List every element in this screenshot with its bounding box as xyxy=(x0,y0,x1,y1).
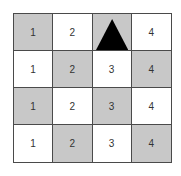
grid-cell-r1-c1: 2 xyxy=(53,51,92,88)
cell-label: 3 xyxy=(109,64,115,75)
cell-label: 3 xyxy=(109,101,115,112)
triangle-marker-icon xyxy=(96,19,128,50)
cell-label: 1 xyxy=(30,64,36,75)
grid-cell-r3-c3: 4 xyxy=(132,125,171,162)
cell-label: 4 xyxy=(149,27,155,38)
grid-cell-r1-c3: 4 xyxy=(132,51,171,88)
grid-cell-r2-c0: 1 xyxy=(14,88,53,125)
cell-label: 2 xyxy=(70,27,76,38)
cell-label: 2 xyxy=(70,138,76,149)
cell-label: 4 xyxy=(149,64,155,75)
grid-cell-r3-c0: 1 xyxy=(14,125,53,162)
grid-cell-r2-c3: 4 xyxy=(132,88,171,125)
cell-label: 3 xyxy=(109,138,115,149)
checkerboard-grid: 1 2 4 1 2 3 4 1 2 3 4 1 2 3 4 xyxy=(13,13,172,163)
grid-cell-r2-c2: 3 xyxy=(93,88,132,125)
grid-cell-r0-c1: 2 xyxy=(53,14,92,51)
grid-cell-r1-c0: 1 xyxy=(14,51,53,88)
cell-label: 2 xyxy=(70,64,76,75)
grid-cell-r0-c0: 1 xyxy=(14,14,53,51)
grid-cell-r0-c2 xyxy=(93,14,132,51)
cell-label: 4 xyxy=(149,101,155,112)
cell-label: 4 xyxy=(149,138,155,149)
grid-cell-r0-c3: 4 xyxy=(132,14,171,51)
cell-label: 2 xyxy=(70,101,76,112)
grid-cell-r1-c2: 3 xyxy=(93,51,132,88)
cell-label: 1 xyxy=(30,101,36,112)
cell-label: 1 xyxy=(30,138,36,149)
grid-cell-r2-c1: 2 xyxy=(53,88,92,125)
grid-cell-r3-c2: 3 xyxy=(93,125,132,162)
grid-cell-r3-c1: 2 xyxy=(53,125,92,162)
cell-label: 1 xyxy=(30,27,36,38)
